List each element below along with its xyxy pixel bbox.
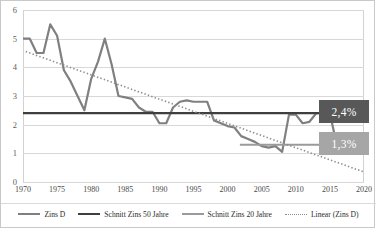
x-axis-tick-label: 1975 xyxy=(49,185,65,194)
x-axis-tick-label: 1985 xyxy=(117,185,133,194)
legend-swatch-icon xyxy=(182,213,204,215)
legend-label: Schnitt Zins 50 Jahre xyxy=(104,210,168,219)
y-axis-tick-label: 3 xyxy=(13,91,17,101)
legend-swatch-icon xyxy=(285,214,307,215)
x-axis-tick-label: 1995 xyxy=(186,185,202,194)
x-axis: 1970197519801985199019952000200520102015… xyxy=(23,185,364,199)
x-axis-tick-label: 1990 xyxy=(151,185,167,194)
legend-label: Zins D xyxy=(44,210,65,219)
chart-legend: Zins DSchnitt Zins 50 JahreSchnitt Zins … xyxy=(1,203,376,224)
y-axis-tick-label: 4 xyxy=(13,62,17,72)
x-axis-tick-label: 2005 xyxy=(254,185,270,194)
schnitt-50-callout: 2,4% xyxy=(319,100,369,123)
x-axis-tick-label: 2020 xyxy=(356,185,372,194)
legend-label: Schnitt Zins 20 Jahre xyxy=(208,210,272,219)
legend-item[interactable]: Schnitt Zins 50 Jahre xyxy=(78,210,168,219)
linear-zins-d-line xyxy=(26,52,364,172)
schnitt-50-value: 2,4% xyxy=(331,106,356,118)
chart-lines xyxy=(23,10,364,182)
x-axis-tick-label: 2015 xyxy=(322,185,338,194)
schnitt-20-callout: 1,3% xyxy=(319,132,369,155)
y-axis: 6543210 xyxy=(1,10,21,182)
x-axis-tick-label: 2000 xyxy=(220,185,236,194)
y-axis-tick-label: 5 xyxy=(13,34,17,44)
plot-area xyxy=(23,10,364,182)
x-axis-tick-label: 1980 xyxy=(83,185,99,194)
x-axis-tick-label: 2010 xyxy=(288,185,304,194)
x-axis-tick-label: 1970 xyxy=(15,185,31,194)
legend-item[interactable]: Schnitt Zins 20 Jahre xyxy=(182,210,272,219)
schnitt-20-value: 1,3% xyxy=(331,138,356,150)
legend-item[interactable]: Linear (Zins D) xyxy=(285,210,359,219)
legend-item[interactable]: Zins D xyxy=(18,210,65,219)
y-axis-tick-label: 1 xyxy=(13,148,17,158)
legend-label: Linear (Zins D) xyxy=(311,210,359,219)
legend-swatch-icon xyxy=(18,213,40,215)
zins-d-line xyxy=(23,24,364,152)
legend-swatch-icon xyxy=(78,213,100,215)
y-axis-tick-label: 2 xyxy=(13,120,17,130)
y-axis-tick-label: 6 xyxy=(13,5,17,15)
gridline xyxy=(23,182,364,183)
